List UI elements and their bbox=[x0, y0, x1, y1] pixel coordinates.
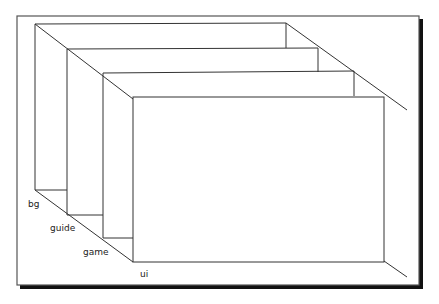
label-game: game bbox=[83, 247, 109, 257]
label-guide: guide bbox=[50, 223, 76, 233]
layer-ui bbox=[133, 97, 384, 262]
layer-stack-diagram: bg guide game ui bbox=[0, 0, 439, 304]
label-ui: ui bbox=[140, 269, 148, 279]
label-bg: bg bbox=[28, 199, 39, 209]
